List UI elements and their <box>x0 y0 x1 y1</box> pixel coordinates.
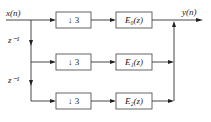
arrow-icon <box>196 18 203 22</box>
input-label: x(n) <box>5 8 21 18</box>
arrow-down-icon <box>29 80 33 86</box>
arrow-down-icon <box>29 40 33 46</box>
arrow-icon <box>110 60 116 64</box>
output-label: y(n) <box>181 7 197 17</box>
delay-label-1: z⁻¹ <box>7 35 20 45</box>
polyphase-decimator-diagram: x(n) z⁻¹ z⁻¹ ↓ 3 E₀(z) y(n) ↓ 3 E₁(z) ↓ … <box>0 0 211 122</box>
arrow-icon <box>110 99 116 103</box>
arrow-icon <box>110 18 116 22</box>
downsampler-label-0: ↓ 3 <box>68 15 80 25</box>
arrow-icon <box>50 99 56 103</box>
arrow-icon <box>50 60 56 64</box>
filter-label-1: E₁(z) <box>124 57 143 67</box>
arrow-up-icon <box>172 21 176 27</box>
filter-label-0: E₀(z) <box>124 15 143 25</box>
downsampler-label-1: ↓ 3 <box>68 57 80 67</box>
delay-label-2: z⁻¹ <box>7 75 20 85</box>
filter-label-2: E₂(z) <box>124 96 143 106</box>
arrow-icon <box>50 18 56 22</box>
arrow-icon <box>168 99 174 103</box>
downsampler-label-2: ↓ 3 <box>68 96 80 106</box>
arrow-icon <box>168 60 174 64</box>
